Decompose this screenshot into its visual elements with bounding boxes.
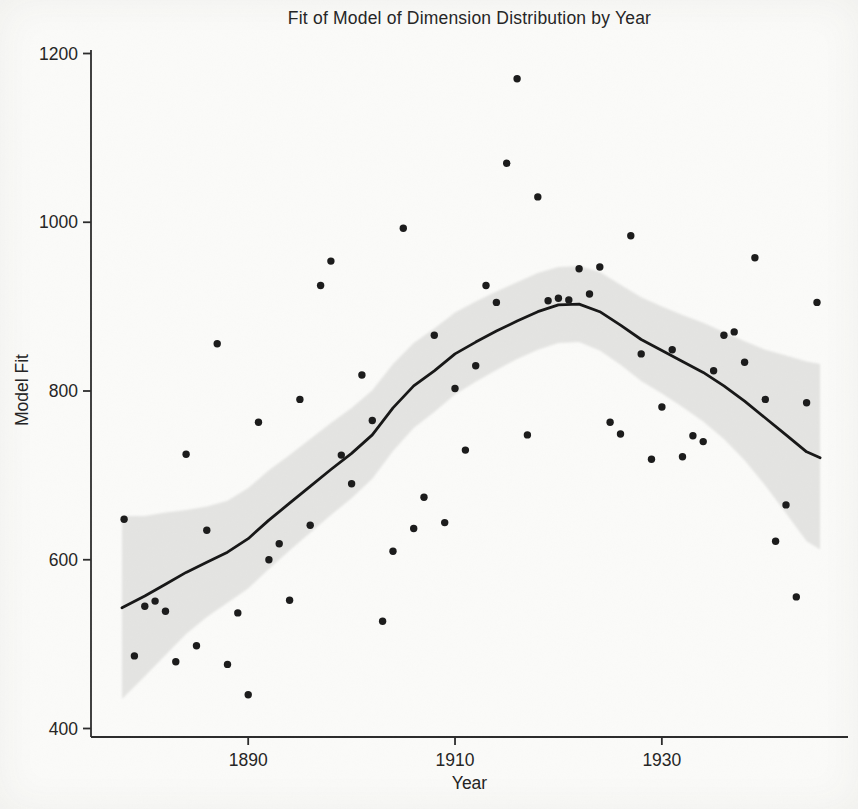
data-point: [679, 453, 686, 460]
data-point: [648, 456, 655, 463]
data-point: [493, 299, 500, 306]
x-axis-title: Year: [91, 773, 848, 794]
x-tick-label: 1910: [436, 750, 475, 770]
data-point: [296, 396, 303, 403]
data-point: [803, 399, 810, 406]
data-point: [669, 346, 676, 353]
data-point: [513, 75, 520, 82]
data-point: [472, 362, 479, 369]
scatter-plot-canvas: 40060080010001200189019101930: [0, 0, 858, 809]
data-point: [141, 603, 148, 610]
x-tick-label: 1930: [642, 750, 681, 770]
data-point: [503, 160, 510, 167]
data-point: [575, 265, 582, 272]
data-point: [379, 618, 386, 625]
data-point: [482, 282, 489, 289]
data-point: [596, 263, 603, 270]
data-point: [462, 446, 469, 453]
data-point: [327, 257, 334, 264]
data-point: [172, 658, 179, 665]
data-point: [400, 225, 407, 232]
data-point: [793, 593, 800, 600]
data-point: [700, 438, 707, 445]
data-point: [369, 417, 376, 424]
y-tick-label: 1000: [39, 212, 78, 232]
data-point: [638, 350, 645, 357]
data-point: [606, 419, 613, 426]
scanned-figure-page: Fit of Model of Dimension Distribution b…: [0, 0, 858, 809]
chart-title: Fit of Model of Dimension Distribution b…: [91, 8, 848, 29]
data-point: [307, 522, 314, 529]
y-tick-label: 800: [49, 381, 78, 401]
data-point: [751, 254, 758, 261]
data-point: [431, 332, 438, 339]
data-point: [182, 451, 189, 458]
data-point: [741, 359, 748, 366]
y-tick-label: 600: [49, 550, 78, 570]
data-point: [617, 430, 624, 437]
data-point: [782, 501, 789, 508]
y-tick-label: 400: [49, 719, 78, 739]
data-point: [234, 609, 241, 616]
data-point: [813, 299, 820, 306]
data-point: [441, 519, 448, 526]
data-point: [451, 385, 458, 392]
data-point: [203, 527, 210, 534]
data-point: [627, 232, 634, 239]
data-point: [658, 403, 665, 410]
data-point: [720, 332, 727, 339]
data-point: [193, 642, 200, 649]
data-point: [544, 297, 551, 304]
data-point: [348, 480, 355, 487]
data-point: [255, 419, 262, 426]
data-point: [689, 432, 696, 439]
x-tick-label: 1890: [229, 750, 268, 770]
data-point: [534, 193, 541, 200]
data-point: [772, 538, 779, 545]
data-point: [565, 296, 572, 303]
data-point: [224, 661, 231, 668]
y-tick-label: 1200: [39, 44, 78, 64]
data-point: [245, 691, 252, 698]
data-point: [162, 608, 169, 615]
y-axis-title: Model Fit: [12, 354, 33, 426]
data-point: [586, 290, 593, 297]
data-point: [358, 371, 365, 378]
data-point: [762, 396, 769, 403]
data-point: [317, 282, 324, 289]
data-point: [731, 328, 738, 335]
data-point: [276, 540, 283, 547]
data-point: [214, 340, 221, 347]
data-point: [710, 367, 717, 374]
data-point: [555, 295, 562, 302]
data-point: [120, 516, 127, 523]
data-point: [151, 597, 158, 604]
data-point: [524, 431, 531, 438]
data-point: [131, 652, 138, 659]
data-point: [420, 494, 427, 501]
data-point: [265, 556, 272, 563]
data-point: [286, 597, 293, 604]
data-point: [410, 525, 417, 532]
data-point: [338, 451, 345, 458]
data-point: [389, 548, 396, 555]
confidence-band: [122, 266, 820, 699]
